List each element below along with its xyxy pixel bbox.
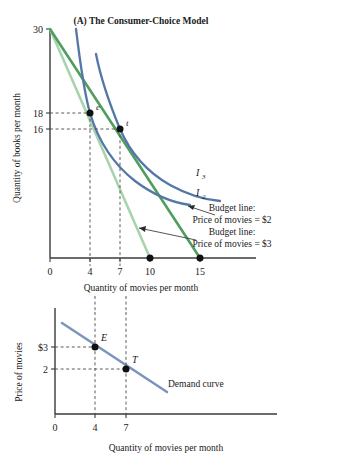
panel-a-ylabel-18: 18	[33, 108, 43, 119]
panel-a: (A) The Consumer-Choice Model Quantity o…	[12, 16, 272, 293]
panel-a-xlabel-7: 7	[118, 266, 123, 277]
economics-figure: (A) The Consumer-Choice Model Quantity o…	[0, 0, 337, 460]
budget-line-price-2	[50, 29, 200, 258]
panel-a-xlabel-15: 15	[195, 266, 205, 277]
annotation-budget-3-line2: Price of movies = $3	[192, 239, 271, 249]
demand-curve-label: Demand curve	[168, 379, 224, 389]
panel-a-y-axis-title: Quantity of books per month	[12, 93, 22, 203]
panel-b-x-axis-title: Quantity of movies per month	[109, 443, 224, 453]
panel-b-ylabel-3: $3	[38, 342, 48, 353]
point-T-label: T	[132, 354, 139, 365]
panel-b-xlabel-4: 4	[93, 422, 98, 433]
point-x10-marker	[147, 255, 154, 262]
panel-a-ylabel-30: 30	[33, 24, 43, 35]
panel-a-ylabel-16: 16	[33, 124, 43, 135]
panel-a-title: (A) The Consumer-Choice Model	[74, 16, 209, 27]
curve-label-i2-sub: 2	[202, 193, 206, 201]
panel-a-x-axis-title: Quantity of movies per month	[84, 283, 199, 293]
budget-line-price-3	[50, 29, 150, 258]
annotation-budget-3-group: Budget line: Price of movies = $3	[139, 226, 272, 249]
panel-b-xlabel-7: 7	[124, 422, 129, 433]
annotation-budget-2-line1: Budget line:	[209, 203, 256, 213]
panel-b: Price of movies $3 2 0 4 7 Quantity of m…	[14, 296, 277, 453]
curve-label-i2-group: I 2	[195, 187, 206, 201]
panel-a-xlabel-4: 4	[88, 266, 93, 277]
panel-a-xlabel-0: 0	[48, 266, 53, 277]
panel-a-xlabel-10: 10	[145, 266, 155, 277]
point-E-marker	[92, 344, 99, 351]
demand-curve	[62, 323, 167, 392]
panel-b-xlabel-0: 0	[53, 422, 58, 433]
point-T-marker	[123, 366, 130, 373]
point-e-label: e	[96, 102, 100, 112]
indifference-curve-i2	[76, 29, 190, 205]
annotation-budget-2-line2: Price of movies = $2	[192, 215, 271, 225]
curve-label-i3-group: I 3	[195, 167, 206, 181]
point-t-label: t	[126, 118, 129, 128]
annotation-budget-3-line1: Budget line:	[209, 227, 256, 237]
point-e-marker	[87, 110, 94, 117]
curve-label-i3-sub: 3	[201, 173, 206, 181]
point-E-label: E	[100, 332, 107, 343]
panel-b-y-axis-title: Price of movies	[14, 342, 24, 402]
curve-label-i2: I	[195, 187, 200, 198]
figure-canvas: (A) The Consumer-Choice Model Quantity o…	[0, 0, 337, 460]
point-t-marker	[117, 126, 124, 133]
curve-label-i3: I	[195, 167, 200, 178]
panel-b-ylabel-2: 2	[43, 364, 48, 375]
point-x15-marker	[197, 255, 204, 262]
annotation-budget-2-group: Budget line: Price of movies = $2	[188, 203, 272, 225]
annotation-budget-3-arrow-head	[139, 226, 146, 232]
annotation-budget-3-arrow-line	[139, 228, 196, 240]
